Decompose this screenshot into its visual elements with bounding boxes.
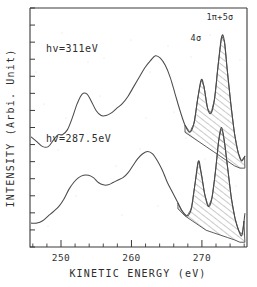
spectrum-figure: 250260270 KINETIC ENERGY (eV) INTENSITY …	[0, 0, 257, 287]
scan-speck	[99, 95, 100, 96]
x-axis-title: KINETIC ENERGY (eV)	[69, 268, 206, 279]
y-axis-title: INTENSITY (Arbi. Unit)	[5, 49, 16, 208]
scan-speck	[173, 111, 174, 112]
scan-speck	[43, 103, 44, 104]
x-tick-label: 270	[193, 252, 211, 263]
x-tick-label: 250	[52, 252, 70, 263]
scan-speck	[130, 39, 131, 40]
x-axis-tick-labels: 250260270	[52, 252, 211, 263]
x-axis-ticks	[33, 240, 244, 247]
shaded-peak-region-upper	[185, 37, 245, 168]
spectrum-plot: 250260270 KINETIC ENERGY (eV) INTENSITY …	[0, 0, 257, 287]
y-axis-ticks	[30, 8, 35, 247]
scan-speck	[185, 137, 186, 138]
scan-speck	[65, 117, 66, 118]
scan-speck	[149, 71, 150, 72]
scan-speck	[75, 195, 76, 196]
scan-speck	[204, 158, 205, 159]
scan-speck	[87, 61, 88, 62]
scan-speck	[167, 45, 168, 46]
scan-speck	[121, 214, 122, 215]
scan-speck	[235, 185, 236, 186]
scan-speck	[35, 71, 36, 72]
scan-speck	[103, 57, 104, 58]
scan-speck	[115, 165, 116, 166]
upper-curve-label: hv=311eV	[46, 43, 98, 54]
scan-speck	[157, 205, 158, 206]
peak-label-4sigma: 4σ	[191, 33, 202, 43]
scan-speck	[57, 149, 58, 150]
scan-speck	[145, 117, 146, 118]
lower-curve-label: hv=287.5eV	[46, 133, 111, 144]
peak-label-1pi-5sigma: 1π+5σ	[206, 12, 233, 22]
scan-speck	[190, 56, 191, 57]
scan-speck	[47, 225, 48, 226]
scan-speck	[61, 32, 62, 33]
scan-speck	[139, 148, 140, 149]
scan-speck	[209, 34, 210, 35]
x-tick-label: 260	[122, 252, 140, 263]
scan-speck	[239, 59, 240, 60]
